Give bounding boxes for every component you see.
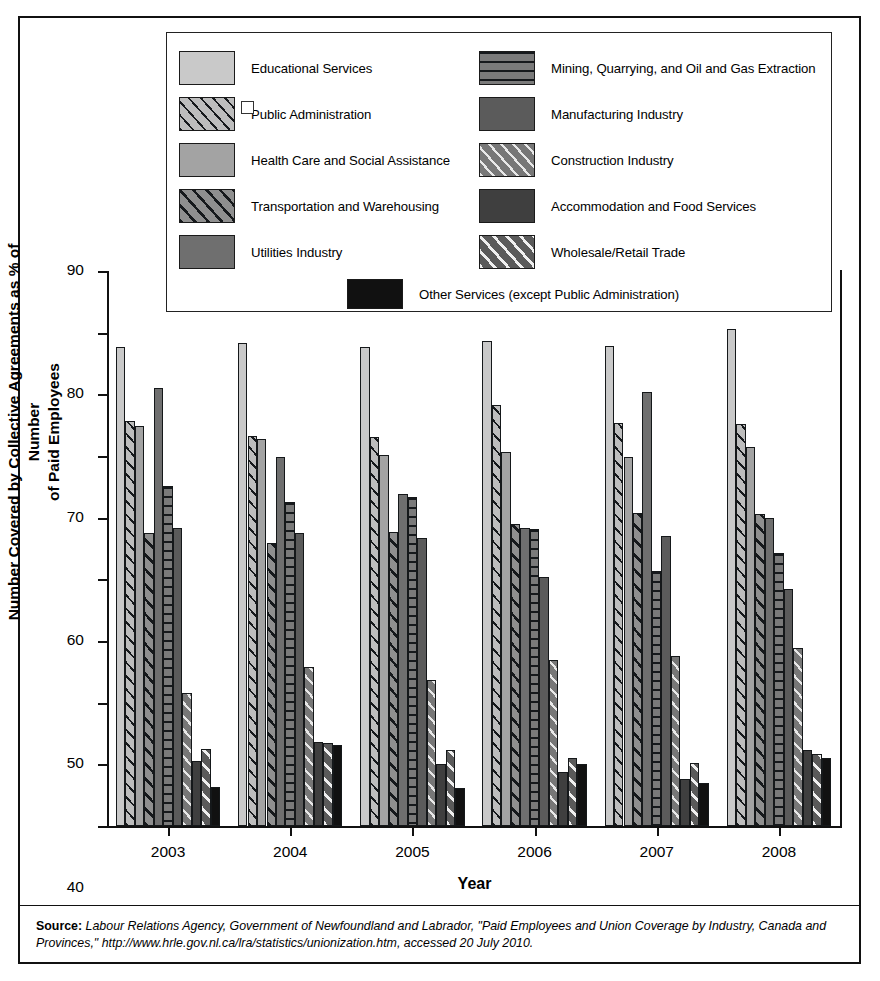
bar[interactable] [333, 745, 342, 826]
bar[interactable] [614, 423, 623, 826]
bar[interactable] [755, 514, 764, 826]
source-note: Source: Labour Relations Agency, Governm… [20, 905, 859, 962]
x-tick-label-2008: 2008 [762, 843, 796, 861]
bar[interactable] [154, 388, 163, 826]
bar[interactable] [211, 787, 220, 826]
bar-group-2005 [351, 271, 473, 826]
x-tick [779, 826, 781, 836]
bar[interactable] [125, 421, 134, 826]
bar-group-2008 [718, 271, 840, 826]
y-tick: 20 [98, 703, 107, 705]
bar[interactable] [736, 424, 745, 826]
bar[interactable] [642, 392, 651, 826]
bar[interactable] [446, 750, 455, 826]
y-tick-label: 60 [67, 631, 84, 649]
bar[interactable] [784, 589, 793, 826]
source-text: Labour Relations Agency, Government of N… [36, 919, 826, 950]
bar[interactable] [116, 347, 125, 826]
bar[interactable] [793, 648, 802, 826]
bar[interactable] [360, 347, 369, 826]
bar[interactable] [661, 536, 670, 826]
x-tick-label-2007: 2007 [640, 843, 674, 861]
bar[interactable] [436, 764, 445, 826]
bar[interactable] [539, 577, 548, 826]
y-tick: 60 [98, 456, 107, 458]
x-axis-line [107, 826, 842, 828]
bar[interactable] [530, 529, 539, 826]
y-tick: 70 [98, 394, 107, 396]
bar[interactable] [803, 750, 812, 826]
bar[interactable] [257, 439, 266, 826]
bar[interactable] [389, 532, 398, 826]
y-tick: 40 [98, 579, 107, 581]
bar[interactable] [370, 437, 379, 826]
bar[interactable] [520, 528, 529, 826]
y-tick: 0 [98, 826, 107, 828]
x-tick [290, 826, 292, 836]
bar[interactable] [379, 455, 388, 826]
y-tick: 30 [98, 641, 107, 643]
bar[interactable] [577, 764, 586, 826]
y-tick-label: 40 [67, 878, 84, 896]
bar[interactable] [482, 341, 491, 826]
bar[interactable] [699, 783, 708, 826]
bar[interactable] [304, 667, 313, 826]
bar-group-2007 [596, 271, 718, 826]
bar[interactable] [417, 538, 426, 826]
plot-area: Number Covered by Collective Agreements … [20, 18, 863, 898]
bar[interactable] [295, 533, 304, 826]
bar-group-2003 [107, 271, 229, 826]
bar[interactable] [173, 528, 182, 826]
bar[interactable] [605, 346, 614, 826]
bar[interactable] [408, 497, 417, 826]
bar[interactable] [746, 447, 755, 826]
bar-group-2004 [229, 271, 351, 826]
bar[interactable] [201, 749, 210, 826]
bar[interactable] [323, 743, 332, 826]
bar[interactable] [238, 343, 247, 826]
bar[interactable] [624, 457, 633, 826]
y-tick: 80 [98, 333, 107, 335]
bar[interactable] [633, 513, 642, 826]
bar[interactable] [774, 553, 783, 826]
y-tick: 50 [98, 518, 107, 520]
bar[interactable] [135, 426, 144, 826]
plot-right-border [840, 270, 842, 828]
bar[interactable] [276, 457, 285, 826]
axes: 0102030405060708090 20032004200520062007… [107, 271, 842, 826]
x-tick-label-2005: 2005 [395, 843, 429, 861]
bar[interactable] [558, 772, 567, 826]
bar[interactable] [144, 533, 153, 826]
bar[interactable] [192, 761, 201, 826]
bar[interactable] [549, 660, 558, 826]
bar[interactable] [812, 754, 821, 826]
y-tick: 10 [98, 764, 107, 766]
bar[interactable] [314, 742, 323, 826]
x-tick [168, 826, 170, 836]
bar[interactable] [285, 502, 294, 826]
bar[interactable] [568, 758, 577, 826]
bar[interactable] [671, 656, 680, 826]
bar[interactable] [182, 693, 191, 826]
bar[interactable] [163, 486, 172, 826]
bar[interactable] [248, 436, 257, 826]
bar[interactable] [652, 571, 661, 826]
x-tick-label-2003: 2003 [151, 843, 185, 861]
figure-frame: Educational Services Public Administrati… [18, 16, 861, 964]
bar[interactable] [511, 524, 520, 826]
x-tick [412, 826, 414, 836]
bar[interactable] [492, 405, 501, 826]
bar[interactable] [727, 329, 736, 826]
bar[interactable] [822, 758, 831, 826]
bar[interactable] [427, 680, 436, 826]
bar[interactable] [455, 788, 464, 826]
bar[interactable] [680, 779, 689, 826]
bar[interactable] [267, 543, 276, 826]
bar[interactable] [398, 494, 407, 826]
x-tick [535, 826, 537, 836]
bar[interactable] [690, 763, 699, 826]
y-tick-label: 90 [67, 261, 84, 279]
bar[interactable] [501, 452, 510, 826]
bar[interactable] [765, 518, 774, 826]
y-tick: 90 [98, 271, 107, 273]
